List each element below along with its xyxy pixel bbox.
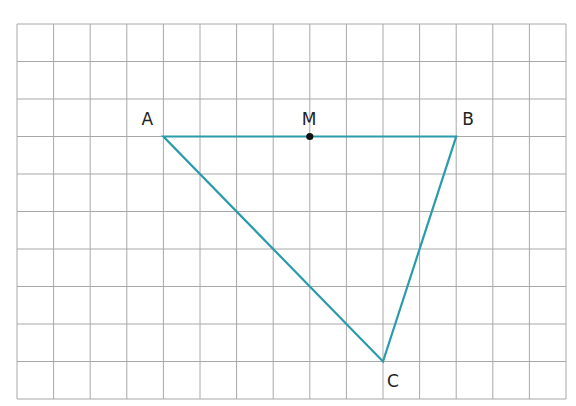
grid (17, 24, 566, 399)
vertex-label-a: A (141, 109, 153, 129)
vertex-label-b: B (462, 109, 474, 129)
vertex-label-c: C (387, 371, 399, 391)
triangle-grid-diagram: A B C M (0, 0, 576, 406)
midpoint-label-m: M (302, 109, 317, 129)
midpoint-m-dot (306, 133, 313, 140)
